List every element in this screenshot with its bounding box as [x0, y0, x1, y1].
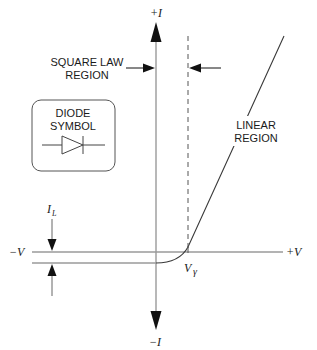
diode-symbol-box: DIODE SYMBOL — [32, 100, 115, 171]
svg-text:γ: γ — [193, 266, 198, 277]
current-axis: +I −I — [149, 6, 163, 349]
negative-current-label: −I — [149, 335, 162, 349]
positive-current-label: +I — [150, 6, 163, 20]
square-law-label-line2: REGION — [65, 69, 108, 81]
linear-label-line1: LINEAR — [236, 119, 276, 131]
diode-label-line1: DIODE — [56, 107, 91, 119]
up-arrow-icon — [151, 22, 162, 42]
linear-region-annotation: LINEAR REGION — [232, 116, 280, 146]
svg-text:L: L — [51, 209, 57, 218]
down-arrow-icon — [151, 311, 162, 330]
leakage-current-annotation: I L — [46, 202, 57, 296]
negative-voltage-label: −V — [9, 245, 26, 259]
positive-voltage-label: +V — [286, 245, 303, 259]
diode-label-line2: SYMBOL — [50, 120, 96, 132]
right-arrow-icon — [143, 64, 155, 73]
down-arrow-icon — [48, 239, 57, 251]
linear-label-line2: REGION — [234, 132, 277, 144]
iv-curve — [156, 36, 284, 263]
square-law-label-line1: SQUARE LAW — [51, 56, 125, 68]
threshold-voltage-label: V γ — [184, 261, 198, 277]
square-law-region-annotation: SQUARE LAW REGION — [51, 56, 221, 81]
left-arrow-icon — [189, 64, 201, 73]
svg-text:V: V — [184, 261, 193, 275]
up-arrow-icon — [48, 264, 57, 276]
diode-iv-characteristic-diagram: +I −I +V −V V γ SQUARE LAW REGION LINEAR… — [0, 0, 317, 350]
